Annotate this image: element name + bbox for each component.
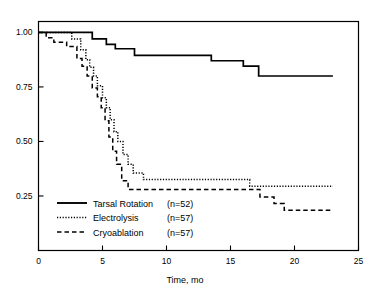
x-axis-ticks: 0510152025	[36, 246, 363, 266]
curve-tarsal-rotation	[39, 32, 333, 76]
y-tick-label: 0.75	[16, 82, 33, 92]
x-tick-label: 0	[36, 256, 41, 266]
x-axis-title: Time, mo	[166, 275, 203, 285]
kaplan-meier-figure: 0510152025 0.250.500.751.00 Tarsal Rotat…	[0, 0, 391, 293]
y-tick-label: 0.50	[16, 136, 33, 146]
legend-sample-size: (n=57)	[167, 228, 193, 238]
x-tick-label: 25	[354, 256, 364, 266]
survival-curves	[39, 32, 333, 210]
x-tick-label: 15	[226, 256, 236, 266]
y-tick-label: 1.00	[16, 27, 33, 37]
y-tick-label: 0.25	[16, 191, 33, 201]
legend-sample-size: (n=57)	[167, 213, 193, 223]
chart-legend: Tarsal Rotation(n=52)Electrolysis(n=57)C…	[57, 199, 193, 238]
curve-cryoablation	[39, 32, 333, 210]
legend-label: Cryoablation	[93, 228, 144, 238]
survival-chart: 0510152025 0.250.500.751.00 Tarsal Rotat…	[0, 0, 391, 293]
legend-label: Tarsal Rotation	[93, 199, 153, 209]
y-axis-ticks: 0.250.500.751.00	[16, 27, 44, 201]
legend-sample-size: (n=52)	[167, 199, 193, 209]
x-tick-label: 20	[290, 256, 300, 266]
x-tick-label: 10	[162, 256, 172, 266]
x-tick-label: 5	[100, 256, 105, 266]
legend-label: Electrolysis	[93, 213, 139, 223]
